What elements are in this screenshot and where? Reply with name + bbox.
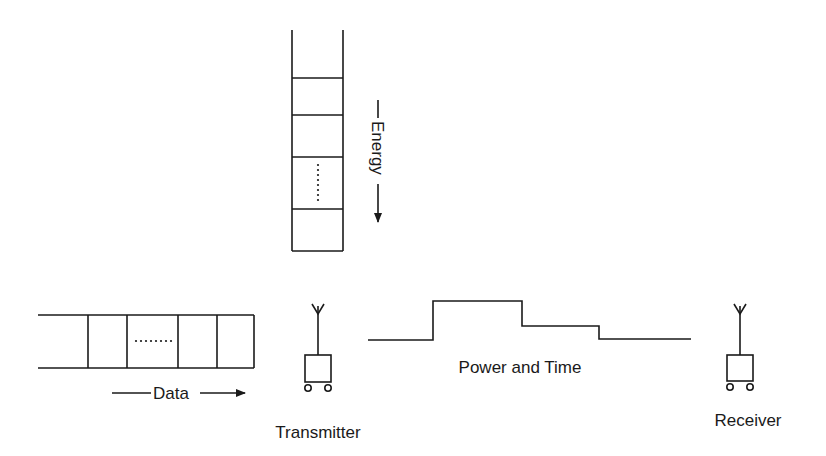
- power-time-label: Power and Time: [459, 358, 582, 377]
- energy-queue: [292, 30, 343, 251]
- receiver-label: Receiver: [714, 411, 781, 430]
- energy-data-transmission-diagram: Energy Data Transmitter Power a: [0, 0, 826, 456]
- transmitter-label: Transmitter: [275, 423, 361, 442]
- data-arrow: Data: [112, 384, 245, 403]
- power-time-waveform: [368, 301, 691, 340]
- energy-arrow: Energy: [368, 100, 387, 222]
- energy-label: Energy: [368, 121, 387, 175]
- data-label: Data: [153, 384, 189, 403]
- energy-queue-ellipsis: [317, 164, 319, 201]
- transmitter-icon: [305, 304, 331, 391]
- receiver-icon: [727, 304, 753, 390]
- data-queue-ellipsis: [135, 340, 172, 342]
